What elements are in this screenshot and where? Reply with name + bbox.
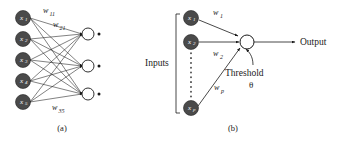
weight-label-b-wp: w (214, 83, 220, 92)
output-node-2[interactable] (82, 60, 94, 72)
panel-b-weight-labels: w 1 w 2 w p (213, 8, 224, 94)
inputs-bracket-label: Inputs (145, 58, 169, 68)
threshold-pointer (246, 49, 253, 65)
threshold-symbol: θ (249, 80, 253, 90)
input-node-x3[interactable]: x 3 (16, 53, 31, 68)
weight-label-b-w1-subscript: 1 (220, 13, 223, 19)
input-node-x1-subscript: 1 (25, 17, 28, 22)
panel-a-caption: (a) (57, 123, 67, 133)
panel-a: x 1 x 2 x 3 x 4 (16, 6, 101, 133)
weight-label-w35: w (52, 103, 58, 112)
output-node-1[interactable] (82, 28, 94, 40)
input-node-b-xp-subscript: p (192, 107, 196, 112)
weight-label-w21-subscript: 21 (60, 25, 66, 31)
panel-b: Inputs Output Threshold θ (145, 8, 327, 133)
input-node-b-x1-subscript: 1 (193, 17, 196, 22)
output-node-3[interactable] (82, 88, 94, 100)
panel-a-output-dots (98, 33, 101, 96)
weight-label-w11: w (43, 6, 49, 15)
input-node-x5[interactable]: x 5 (16, 95, 31, 110)
input-node-x1[interactable]: x 1 (16, 11, 31, 26)
input-node-b-x1[interactable]: x 1 (184, 11, 199, 26)
inputs-bracket (176, 14, 180, 113)
weight-label-b-w2: w (213, 49, 219, 58)
weight-label-b-wp-subscript: p (220, 88, 224, 94)
panel-a-connections (30, 18, 82, 102)
output-dot-1 (98, 33, 101, 36)
weight-label-w11-subscript: 11 (50, 11, 56, 17)
connection-x1-neuron (199, 20, 238, 36)
input-node-x2[interactable]: x 2 (16, 32, 31, 47)
output-label: Output (300, 37, 327, 47)
weight-label-b-w1: w (213, 8, 219, 17)
panel-a-input-nodes: x 1 x 2 x 3 x 4 (16, 11, 31, 110)
threshold-label: Threshold (225, 68, 264, 78)
panel-b-caption: (b) (228, 123, 238, 133)
output-dot-3 (98, 93, 101, 96)
neuron-node[interactable] (240, 35, 254, 49)
panel-a-output-nodes (82, 28, 94, 100)
input-node-x4[interactable]: x 4 (16, 74, 31, 89)
input-node-b-xp[interactable]: x p (184, 101, 199, 116)
weight-label-w21: w (53, 20, 59, 29)
figure-container: x 1 x 2 x 3 x 4 (0, 0, 342, 143)
neural-network-figure: x 1 x 2 x 3 x 4 (0, 0, 342, 143)
output-dot-2 (98, 65, 101, 68)
weight-label-w35-subscript: 35 (58, 108, 65, 114)
weight-label-b-w2-subscript: 2 (220, 54, 223, 60)
input-node-b-x2[interactable]: x 2 (184, 35, 199, 50)
panel-b-connections (198, 20, 240, 106)
